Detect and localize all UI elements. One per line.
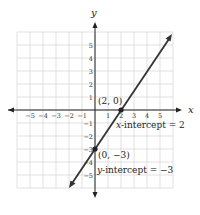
x-tick-labels: −5−4−3−2−112345 bbox=[25, 112, 162, 120]
point-x-intercept bbox=[118, 107, 123, 112]
x-tick-label: −5 bbox=[25, 112, 35, 120]
x-tick-label: 1 bbox=[106, 112, 110, 120]
y-tick-label: 3 bbox=[89, 68, 93, 76]
x-tick-label: 4 bbox=[145, 112, 149, 120]
y-axis-up-arrow bbox=[93, 22, 98, 28]
coordinate-plane: −5−4−3−2−112345 54321−1−2−3−4−5 x y (2, … bbox=[0, 0, 200, 215]
point-y-intercept bbox=[92, 146, 97, 151]
x-intercept-text: -intercept = 2 bbox=[121, 120, 185, 130]
x-axis-label: x bbox=[188, 104, 194, 115]
y-tick-label: 2 bbox=[89, 81, 93, 89]
x-tick-label: −2 bbox=[64, 112, 74, 120]
point-label-2-0: (2, 0) bbox=[98, 96, 122, 106]
point-label-0-neg3: (0, −3) bbox=[98, 150, 130, 160]
x-axis-left-arrow bbox=[8, 108, 14, 113]
y-tick-label: −5 bbox=[83, 172, 93, 180]
line-arrow-down bbox=[69, 181, 76, 189]
y-axis-down-arrow bbox=[93, 192, 98, 198]
x-tick-label: 3 bbox=[132, 112, 136, 120]
x-axis-right-arrow bbox=[176, 108, 182, 113]
y-intercept-annotation: y-intercept = −3 bbox=[96, 165, 174, 175]
x-tick-label: 5 bbox=[158, 112, 162, 120]
y-tick-label: 1 bbox=[89, 94, 93, 102]
y-tick-label: −3 bbox=[83, 146, 93, 154]
y-tick-label: 5 bbox=[89, 42, 93, 50]
x-tick-label: −4 bbox=[38, 112, 48, 120]
y-tick-label: −2 bbox=[83, 133, 93, 141]
line-arrow-up bbox=[166, 34, 173, 42]
x-tick-label: −3 bbox=[51, 112, 61, 120]
y-axis-label: y bbox=[90, 7, 97, 18]
y-tick-label: −1 bbox=[83, 120, 93, 128]
x-intercept-annotation: x-intercept = 2 bbox=[116, 120, 185, 130]
y-tick-label: 4 bbox=[89, 55, 93, 63]
y-intercept-text: -intercept = −3 bbox=[102, 165, 174, 175]
